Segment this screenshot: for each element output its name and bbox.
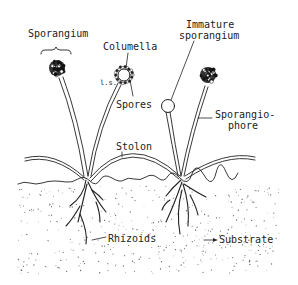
sporangiophores-left xyxy=(59,77,121,176)
label-immature-line2: sporangium xyxy=(179,30,239,41)
sporangium-left xyxy=(49,60,65,77)
rhizopus-diagram: Sporangium Columella l.s. Spores Immatur… xyxy=(0,0,298,285)
label-ls: l.s. xyxy=(100,79,117,87)
label-stolon: Stolon xyxy=(116,141,152,152)
sporangium-right xyxy=(200,67,218,83)
label-sporangium: Sporangium xyxy=(28,28,88,39)
rhizoids-left xyxy=(66,180,106,244)
substrate-texture xyxy=(18,186,280,275)
label-rhizoids: Rhizoids xyxy=(108,233,156,244)
spores-ring xyxy=(114,65,134,84)
rhizoids-right xyxy=(162,180,206,234)
label-sporangiophore-line1: Sporangio- xyxy=(215,109,275,120)
sporangium-open xyxy=(114,65,134,84)
label-spores: Spores xyxy=(116,99,152,110)
leader-lines xyxy=(92,41,217,240)
label-columella: Columella xyxy=(103,41,157,52)
substrate-arrowhead xyxy=(213,238,217,242)
stolon xyxy=(25,153,255,181)
label-substrate: Substrate xyxy=(219,234,273,245)
sporangiophores-right xyxy=(166,86,208,176)
columella-ring xyxy=(118,69,130,81)
sporangium-brace xyxy=(41,47,71,54)
label-immature-line1: Immature xyxy=(186,19,234,30)
immature-sporangium xyxy=(162,100,175,113)
label-sporangiophore-line2: phore xyxy=(228,120,258,131)
